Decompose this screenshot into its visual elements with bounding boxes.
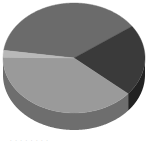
chart-caption: · · · · · · · ·	[10, 137, 49, 143]
pie-top	[3, 3, 145, 113]
pie-chart-3d	[0, 0, 146, 147]
